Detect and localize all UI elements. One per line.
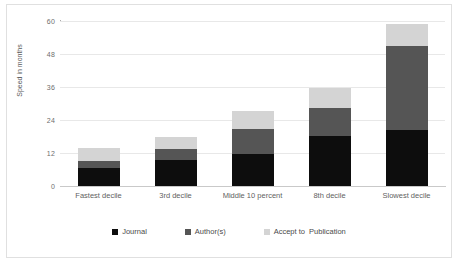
bar-segment[interactable]: [232, 129, 274, 155]
x-axis-tick-labels: Fastest decile3rd decileMiddle 10 percen…: [60, 191, 445, 207]
bar-segment[interactable]: [155, 149, 197, 160]
legend-swatch-icon: [112, 229, 118, 235]
bar-segment[interactable]: [78, 148, 120, 161]
legend-swatch-icon: [185, 229, 191, 235]
stacked-bar[interactable]: [78, 148, 120, 186]
stacked-bar[interactable]: [309, 88, 351, 186]
stacked-bar[interactable]: [232, 111, 274, 186]
legend-label: Accept to Publication: [274, 227, 346, 236]
chart-legend: JournalAuthor(s)Accept to Publication: [7, 227, 451, 236]
y-axis-tick-label: 12: [47, 150, 55, 157]
legend-item[interactable]: Journal: [112, 227, 147, 236]
stacked-bar[interactable]: [155, 137, 197, 186]
bar-segment[interactable]: [386, 46, 428, 130]
legend-item[interactable]: Author(s): [185, 227, 226, 236]
legend-swatch-icon: [264, 229, 270, 235]
y-axis-tick-label: 0: [51, 183, 55, 190]
y-axis-tick-label: 24: [47, 117, 55, 124]
gridline: [60, 21, 445, 22]
legend-item[interactable]: Accept to Publication: [264, 227, 346, 236]
bar-segment[interactable]: [155, 160, 197, 186]
bar-segment[interactable]: [386, 24, 428, 45]
bar-segment[interactable]: [309, 136, 351, 186]
x-axis-line: [60, 186, 446, 187]
x-axis-tick-label: 3rd decile: [159, 191, 192, 200]
x-axis-tick-label: Middle 10 percent: [223, 191, 283, 200]
x-axis-tick-label: 8th decile: [313, 191, 345, 200]
y-axis-tick-label: 36: [47, 84, 55, 91]
y-axis-title: Speed in months: [16, 35, 23, 107]
bar-segment[interactable]: [309, 108, 351, 136]
y-axis-tick-label: 60: [47, 18, 55, 25]
stacked-bar[interactable]: [386, 24, 428, 186]
bar-segment[interactable]: [78, 168, 120, 186]
bar-segment[interactable]: [232, 154, 274, 186]
legend-label: Author(s): [195, 227, 226, 236]
bar-segment[interactable]: [386, 130, 428, 186]
bar-segment[interactable]: [232, 111, 274, 128]
x-axis-tick-label: Fastest decile: [75, 191, 121, 200]
legend-label: Journal: [122, 227, 147, 236]
bar-segment[interactable]: [309, 88, 351, 109]
x-axis-tick-label: Slowest decile: [383, 191, 431, 200]
plot-area: [60, 21, 445, 186]
bar-segment[interactable]: [155, 137, 197, 149]
y-axis-tick-labels: 01224364860: [29, 21, 55, 186]
bar-segment[interactable]: [78, 161, 120, 168]
chart-frame: 01224364860 Speed in months Fastest deci…: [6, 4, 452, 258]
y-axis-tick-label: 48: [47, 51, 55, 58]
